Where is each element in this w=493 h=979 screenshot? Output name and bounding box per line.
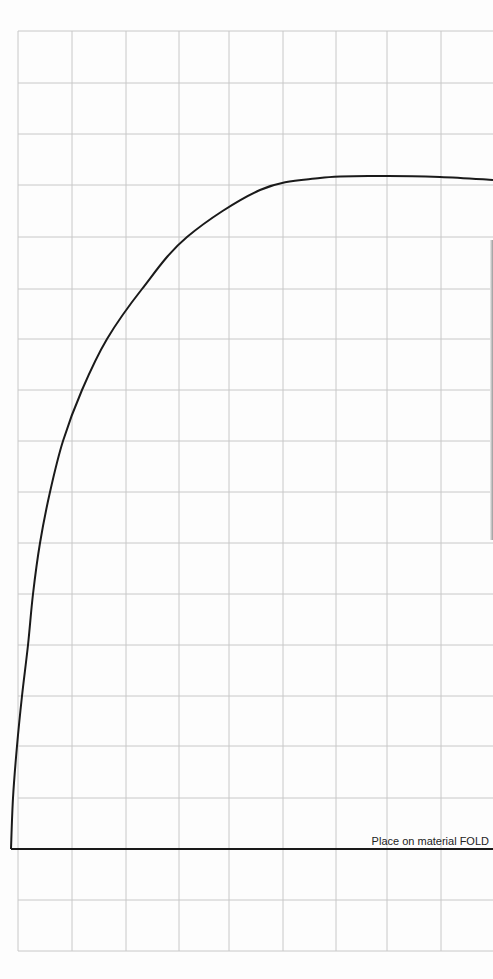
fold-label: Place on material FOLD [372, 835, 489, 847]
pattern-outline-curve [11, 176, 493, 849]
grid-lines [18, 31, 493, 951]
pattern-sheet [0, 0, 493, 979]
